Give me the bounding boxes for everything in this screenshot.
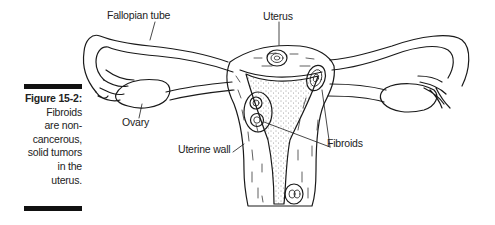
fibroid-lower bbox=[285, 184, 303, 204]
label-ovary: Ovary bbox=[122, 116, 149, 128]
label-fibroids: Fibroids bbox=[327, 137, 363, 149]
fibroid-fundal bbox=[267, 50, 287, 66]
label-uterus: Uterus bbox=[263, 10, 293, 22]
left-fimbriae bbox=[96, 70, 134, 101]
uterus-anatomy-illustration bbox=[0, 0, 495, 225]
right-ovary bbox=[380, 84, 436, 112]
leader-uterine-wall bbox=[233, 144, 244, 152]
leader-fallopian-tube bbox=[150, 22, 155, 40]
label-uterine-wall: Uterine wall bbox=[178, 143, 230, 155]
label-fallopian-tube: Fallopian tube bbox=[107, 9, 170, 21]
uterine-cavity bbox=[246, 74, 318, 204]
